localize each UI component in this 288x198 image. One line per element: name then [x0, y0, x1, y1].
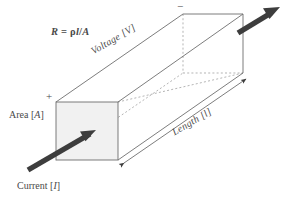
area-label: Area [A] [9, 110, 44, 120]
diagram-canvas [0, 0, 288, 198]
edge-top-right-depth [118, 14, 243, 102]
edge-bottom-right-depth [118, 73, 243, 160]
area-label-close: ] [40, 109, 43, 120]
current-label-close: ] [57, 180, 60, 191]
resistivity-formula-label: R = ρl/A [51, 27, 89, 38]
exit-arrow [238, 7, 280, 33]
positive-terminal-sign: + [46, 91, 52, 102]
resistance-diagram: R = ρl/A Voltage [V] Length [l] Area [A]… [0, 0, 288, 198]
formula-a: A [82, 26, 89, 37]
hidden-edge-top-right-depth [118, 73, 243, 102]
area-label-text: Area [ [9, 109, 34, 120]
formula-equals: = [58, 26, 70, 37]
current-label-text: Current [ [17, 180, 53, 191]
negative-terminal-sign: − [177, 1, 183, 12]
current-label: Current [I] [17, 181, 60, 191]
